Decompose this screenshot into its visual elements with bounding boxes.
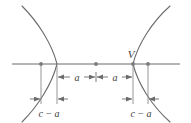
focal-gap-left-label: c − a — [38, 108, 59, 119]
left-focus-point — [39, 62, 43, 66]
center-point — [94, 62, 98, 66]
right-focus-point — [146, 62, 150, 66]
right-vertex-point — [131, 62, 135, 66]
focal-gap-right-label: c − a — [130, 108, 151, 119]
semi-axis-left-label: a — [75, 72, 80, 83]
semi-axis-right-label: a — [113, 72, 118, 83]
diagram-canvas: a a c − a c − a V — [0, 0, 191, 123]
hyperbola-diagram: a a c − a c − a V — [0, 0, 191, 123]
